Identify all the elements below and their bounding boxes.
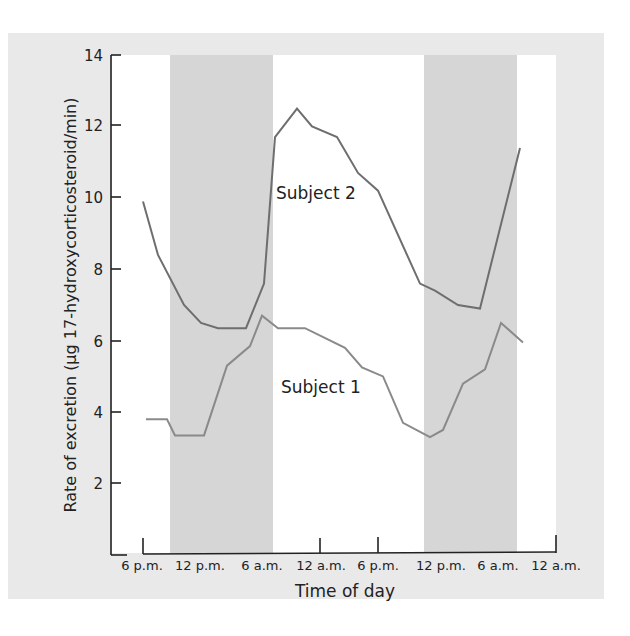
excretion-chart: 14 12 10 8 6 4 2 Rate of excretion (µg 1…: [0, 0, 630, 636]
x-tick-6pm-1: 6 p.m.: [121, 558, 163, 573]
x-tick-labels: 6 p.m. 12 p.m. 6 a.m. 12 a.m. 6 p.m. 12 …: [121, 558, 581, 573]
y-tick-14: 14: [84, 47, 103, 65]
x-tick-6am-1: 6 a.m.: [241, 558, 282, 573]
night-band-1: [170, 55, 273, 553]
x-tick-12am-2: 12 a.m.: [531, 558, 581, 573]
y-axis-title: Rate of excretion (µg 17-hydroxycorticos…: [61, 98, 80, 513]
x-tick-12pm-1: 12 p.m.: [175, 558, 225, 573]
y-tick-12: 12: [84, 117, 103, 135]
y-tick-4: 4: [93, 404, 103, 422]
y-tick-labels: 14 12 10 8 6 4 2: [84, 47, 103, 493]
y-tick-10: 10: [84, 189, 103, 207]
subject-2-label: Subject 2: [276, 183, 356, 203]
y-tick-6: 6: [93, 333, 103, 351]
x-tick-12am-1: 12 a.m.: [296, 558, 346, 573]
y-tick-2: 2: [93, 475, 103, 493]
y-tick-8: 8: [93, 261, 103, 279]
x-axis-title: Time of day: [294, 581, 395, 601]
x-tick-12pm-2: 12 p.m.: [416, 558, 466, 573]
x-tick-6am-2: 6 a.m.: [477, 558, 518, 573]
subject-1-label: Subject 1: [281, 377, 361, 397]
night-band-2: [424, 55, 517, 553]
x-tick-6pm-2: 6 p.m.: [357, 558, 399, 573]
